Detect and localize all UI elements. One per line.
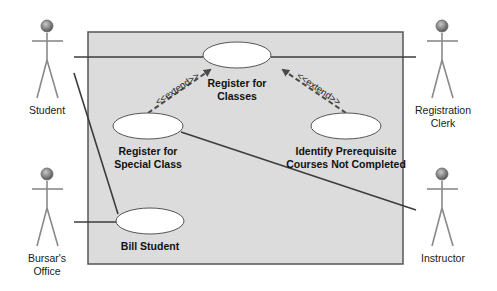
- actor-label-instructor: Instructor: [421, 252, 465, 265]
- use-case-label-register-for-special-class: Register for Special Class: [114, 145, 182, 171]
- actor-label-registration-clerk: Registration Clerk: [415, 104, 471, 130]
- label-line: Identify Prerequisite: [286, 145, 406, 158]
- actor-label-bursars-office: Bursar's Office: [28, 252, 66, 278]
- use-case-label-bill-student: Bill Student: [121, 240, 179, 253]
- use-case-diagram: [0, 0, 497, 291]
- actor-student-icon[interactable]: [32, 20, 63, 98]
- use-case-label-identify-prerequisite: Identify Prerequisite Courses Not Comple…: [286, 145, 406, 171]
- actor-registration-clerk-icon[interactable]: [427, 20, 458, 98]
- label-line: Office: [28, 265, 66, 278]
- use-case-register-for-classes[interactable]: [203, 42, 271, 68]
- label-line: Registration: [415, 104, 471, 117]
- label-line: Courses Not Completed: [286, 158, 406, 171]
- actor-instructor-icon[interactable]: [427, 168, 458, 246]
- label-line: Register for: [208, 77, 267, 90]
- label-line: Classes: [208, 90, 267, 103]
- use-case-label-register-for-classes: Register for Classes: [208, 77, 267, 103]
- label-line: Clerk: [415, 117, 471, 130]
- actor-bursars-office-icon[interactable]: [32, 168, 63, 246]
- label-line: Special Class: [114, 158, 182, 171]
- label-line: Register for: [114, 145, 182, 158]
- use-case-bill-student[interactable]: [116, 208, 184, 234]
- label-line: Bursar's: [28, 252, 66, 265]
- actor-label-student: Student: [29, 104, 65, 117]
- use-case-identify-prerequisite[interactable]: [311, 113, 381, 139]
- use-case-register-for-special-class[interactable]: [113, 113, 183, 139]
